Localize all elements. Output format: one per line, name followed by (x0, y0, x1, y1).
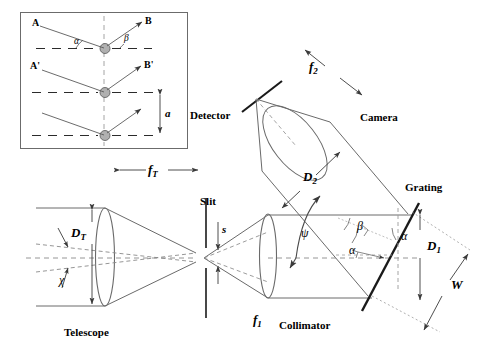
d1-symbol: D (427, 238, 436, 253)
camera-cone (251, 95, 408, 296)
inset-angle-alpha: α (74, 37, 79, 47)
grating-width-dimension (424, 254, 468, 330)
collimator-assembly (204, 214, 420, 298)
slit-label: Slit (200, 196, 216, 207)
collimator-focal-label: f1 (253, 313, 262, 329)
inset-groove-row-3 (32, 109, 158, 141)
grating-angle-beta-label: β (357, 220, 363, 232)
detector-label: Detector (190, 110, 230, 121)
deviation-angle-label: ψ (301, 227, 308, 239)
slit-assembly (206, 198, 218, 318)
figure-vector-graphics (0, 0, 486, 356)
inset-label-b: B (145, 16, 152, 26)
f1-subscript: 1 (257, 319, 262, 329)
telescope-assembly (26, 208, 196, 306)
grating-surface (0, 0, 470, 332)
inset-label-b-prime: B' (144, 60, 153, 70)
dt-subscript: T (80, 232, 86, 242)
inset-groove-row-2 (32, 66, 158, 98)
grating-label: Grating (405, 182, 442, 193)
inset-groove-row-1 (36, 22, 152, 54)
collimator-label: Collimator (279, 320, 330, 331)
slit-width-label: s (222, 224, 226, 235)
dt-symbol: D (71, 225, 80, 240)
grating-angle-alpha-label: α (349, 244, 355, 256)
grating-normal-angle-label: α (401, 230, 407, 242)
camera-focal-label: f2 (309, 60, 318, 76)
beam-diameter-label: D1 (427, 239, 441, 255)
inset-label-a: A (32, 18, 39, 28)
telescope-diameter-label: DT (71, 226, 86, 242)
detector-plane (242, 81, 282, 112)
grating-width-label: W (451, 278, 463, 291)
inset-angle-beta: β (124, 34, 129, 44)
camera-diameter-label: D2 (303, 170, 317, 186)
f2-subscript: 2 (313, 66, 318, 76)
field-angle-label: χ (59, 274, 64, 286)
telescope-label: Telescope (64, 327, 109, 338)
f-subscript: T (152, 169, 158, 179)
camera-label: Camera (360, 112, 398, 123)
d1-subscript: 1 (436, 245, 441, 255)
telescope-focal-label: fT (148, 163, 158, 179)
d2-subscript: 2 (312, 176, 317, 186)
optical-layout-figure: A B A' B' α β a Detector Camera Grating … (0, 0, 486, 356)
groove-spacing-label: a (165, 108, 171, 119)
inset-label-a-prime: A' (30, 61, 40, 71)
d2-symbol: D (303, 169, 312, 184)
